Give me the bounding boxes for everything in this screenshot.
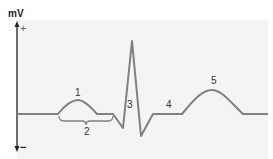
label-t-wave: 5 (211, 75, 217, 86)
ecg-diagram: mV + − 1 2 3 4 5 (0, 0, 273, 159)
y-axis-unit-label: mV (8, 8, 24, 19)
label-pr-interval: 2 (84, 126, 90, 137)
label-st-segment: 4 (166, 99, 172, 110)
y-axis-positive-label: + (20, 22, 26, 34)
label-qrs-complex: 3 (127, 99, 133, 110)
label-p-wave: 1 (75, 87, 81, 98)
plot-panel (17, 20, 268, 159)
y-axis-negative-label: − (20, 141, 26, 153)
